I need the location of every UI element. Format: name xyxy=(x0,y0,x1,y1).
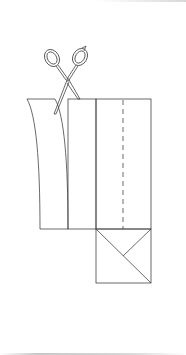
top-edge-shadow xyxy=(96,0,186,2)
panel-2 xyxy=(96,99,151,229)
diagram-svg xyxy=(0,0,186,355)
diagram-canvas xyxy=(0,0,186,355)
curved-strip xyxy=(27,99,68,229)
scissors-icon xyxy=(41,46,90,114)
panel-1 xyxy=(68,99,96,229)
square-with-diagonals xyxy=(96,229,151,283)
